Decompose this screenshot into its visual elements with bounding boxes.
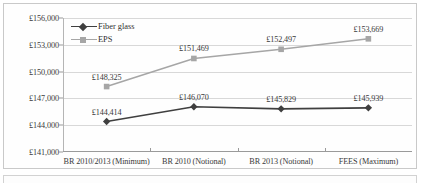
data-label: £144,414 <box>92 108 122 117</box>
legend-swatch-eps <box>71 35 97 45</box>
x-axis-category-label: FEES (Maximum) <box>339 157 398 166</box>
diamond-marker-icon <box>103 118 110 125</box>
y-axis-tick-label: £153,000 <box>1 40 59 49</box>
y-axis-tick-label: £144,000 <box>1 121 59 130</box>
y-axis-tick-label: £147,000 <box>1 94 59 103</box>
y-axis-tick-label: £141,000 <box>1 148 59 157</box>
legend-label-eps: EPS <box>98 35 112 44</box>
x-axis-category-label: BR 2010/2013 (Minimum) <box>64 157 150 166</box>
series-line <box>107 39 369 87</box>
y-axis-tick-label: £156,000 <box>1 14 59 23</box>
data-label: £153,669 <box>353 25 383 34</box>
legend-swatch-fiber-glass <box>71 22 97 32</box>
chart-legend: Fiber glass EPS <box>71 20 135 46</box>
square-marker-icon <box>104 84 110 90</box>
square-marker-icon <box>80 37 86 43</box>
bottom-strip-border <box>3 175 417 183</box>
chart-figure: £141,000£144,000£147,000£150,000£153,000… <box>0 0 422 185</box>
y-axis-tick-label: £150,000 <box>1 67 59 76</box>
data-label: £146,070 <box>179 93 209 102</box>
data-label: £151,469 <box>179 44 209 53</box>
data-label: £145,939 <box>353 94 383 103</box>
diamond-marker-icon <box>79 22 87 30</box>
legend-entry-eps: EPS <box>71 33 135 46</box>
square-marker-icon <box>278 46 284 52</box>
square-marker-icon <box>191 56 197 62</box>
x-axis-category-label: BR 2010 (Notional) <box>162 157 226 166</box>
x-axis-category-label: BR 2013 (Notional) <box>249 157 313 166</box>
data-label: £145,829 <box>266 95 296 104</box>
data-label: £148,325 <box>92 73 122 82</box>
diamond-marker-icon <box>365 104 372 111</box>
diamond-marker-icon <box>277 105 284 112</box>
legend-entry-fiber-glass: Fiber glass <box>71 20 135 33</box>
diamond-marker-icon <box>190 103 197 110</box>
series-line <box>107 107 369 122</box>
square-marker-icon <box>366 36 372 42</box>
legend-label-fiber-glass: Fiber glass <box>98 22 135 31</box>
data-label: £152,497 <box>266 35 296 44</box>
